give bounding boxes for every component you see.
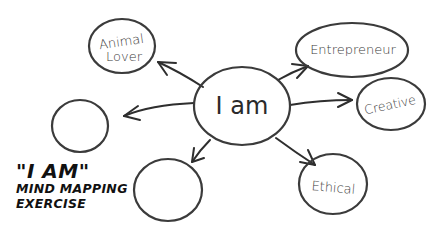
title-main: "I AM" xyxy=(16,161,128,181)
arrow-to-blank-left xyxy=(124,103,194,120)
exercise-title: "I AM" MIND MAPPING EXERCISE xyxy=(16,161,128,210)
blank-bottom-circle xyxy=(134,159,202,221)
arrow-to-animal-lover xyxy=(158,62,203,87)
arrow-to-creative xyxy=(290,93,352,107)
entrepreneur-label: Entrepreneur xyxy=(310,42,396,57)
blank-left-circle xyxy=(52,100,108,152)
title-line3: EXERCISE xyxy=(16,198,128,211)
creative-label: Creative xyxy=(363,92,417,118)
arrow-to-entrepreneur xyxy=(278,64,308,80)
ethical-label: Ethical xyxy=(311,178,356,197)
center-node-label: I am xyxy=(216,92,269,120)
animal-lover-label-line2: Lover xyxy=(106,49,143,64)
arrow-to-blank-bottom xyxy=(192,140,210,162)
arrow-to-ethical xyxy=(276,138,315,165)
title-line2: MIND MAPPING xyxy=(16,183,128,196)
